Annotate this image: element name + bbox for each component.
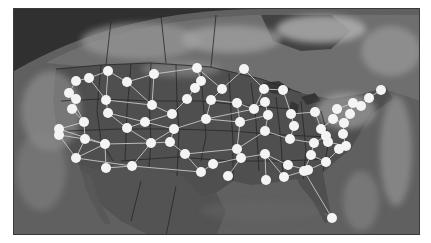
satellite-map <box>13 8 420 235</box>
image-grain <box>14 9 420 235</box>
map-canvas <box>14 9 420 235</box>
